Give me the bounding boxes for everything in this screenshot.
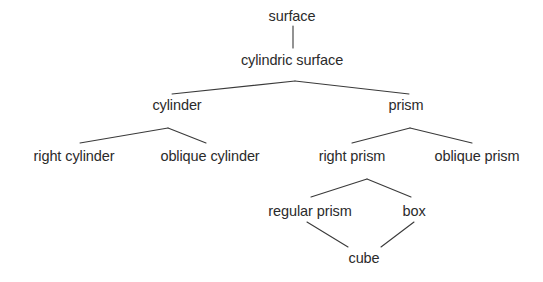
tree-edge-cylindric-surface-to-prism	[295, 81, 409, 94]
tree-node-right-cylinder: right cylinder	[34, 149, 115, 164]
tree-node-right-prism: right prism	[319, 149, 386, 164]
tree-node-cylindric-surface: cylindric surface	[241, 53, 343, 68]
tree-edge-right-prism-to-regular-prism	[311, 179, 367, 197]
tree-node-cylinder: cylinder	[152, 98, 201, 113]
taxonomy-diagram: surfacecylindric surfacecylinderprismrig…	[0, 0, 543, 282]
tree-node-prism: prism	[389, 98, 424, 113]
tree-edge-cylinder-to-right-cylinder	[80, 128, 168, 143]
tree-node-cube: cube	[348, 251, 379, 266]
tree-edge-prism-to-right-prism	[352, 128, 410, 143]
tree-edge-cylinder-to-oblique-cylinder	[168, 128, 206, 143]
tree-edge-prism-to-oblique-prism	[410, 128, 472, 143]
edge-layer	[0, 0, 543, 282]
tree-node-oblique-prism: oblique prism	[435, 149, 520, 164]
tree-edge-box-to-cube	[381, 222, 414, 247]
tree-edge-regular-prism-to-cube	[307, 222, 348, 247]
tree-edge-cylindric-surface-to-cylinder	[172, 81, 295, 94]
tree-edge-right-prism-to-box	[367, 179, 411, 197]
tree-node-regular-prism: regular prism	[268, 204, 351, 219]
tree-node-surface: surface	[269, 9, 316, 24]
tree-node-box: box	[402, 204, 425, 219]
tree-node-oblique-cylinder: oblique cylinder	[160, 149, 259, 164]
